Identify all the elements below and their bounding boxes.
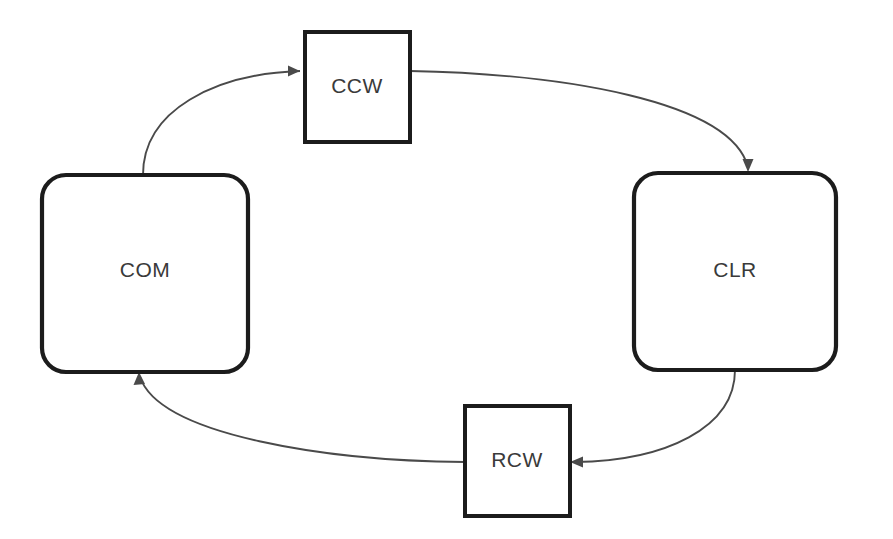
node-com[interactable]: COM — [42, 175, 248, 372]
node-clr[interactable]: CLR — [634, 173, 836, 370]
node-com-label: COM — [120, 258, 171, 281]
edge-clr-to-rcw — [570, 370, 735, 468]
edge-com-to-ccw — [143, 66, 300, 176]
node-rcw-label: RCW — [491, 448, 543, 471]
edge-com-to-ccw-line — [143, 71, 300, 175]
state-cycle-diagram: COM CCW CLR RCW — [0, 0, 893, 539]
edge-rcw-to-com-line — [140, 377, 465, 462]
edge-com-to-ccw-arrowhead — [288, 66, 300, 77]
edge-ccw-to-clr — [410, 71, 754, 172]
node-ccw[interactable]: CCW — [305, 32, 410, 142]
node-ccw-label: CCW — [331, 74, 383, 97]
node-layer: COM CCW CLR RCW — [42, 32, 836, 516]
edge-ccw-to-clr-line — [410, 71, 748, 167]
edge-rcw-to-com — [134, 372, 466, 462]
node-rcw[interactable]: RCW — [465, 406, 570, 516]
edge-ccw-to-clr-arrowhead — [743, 159, 754, 172]
node-clr-label: CLR — [713, 258, 757, 281]
edge-clr-to-rcw-line — [575, 370, 735, 462]
